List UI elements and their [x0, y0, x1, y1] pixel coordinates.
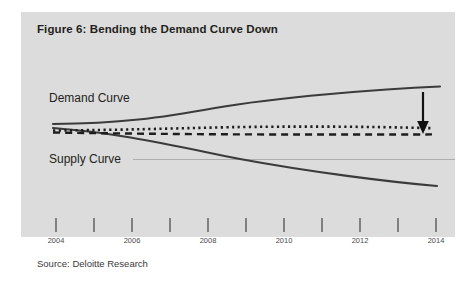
series-supply-curve: [53, 128, 437, 186]
axis-tick-label-2010: 2010: [276, 236, 293, 245]
figure-root: Figure 6: Bending the Demand Curve Down …: [0, 0, 473, 285]
axis-tick-label-2004: 2004: [48, 236, 65, 245]
source-note: Source: Deloitte Research: [37, 258, 148, 269]
series-bent-demand-dotted: [53, 127, 432, 131]
series-demand-curve: [53, 87, 440, 125]
axis-tick-label-2006: 2006: [124, 236, 141, 245]
axis-tick-label-2014: 2014: [428, 236, 445, 245]
axis-ticks: [56, 218, 436, 232]
chart-canvas: [0, 0, 473, 285]
axis-tick-label-2012: 2012: [352, 236, 369, 245]
axis-tick-label-2008: 2008: [200, 236, 217, 245]
